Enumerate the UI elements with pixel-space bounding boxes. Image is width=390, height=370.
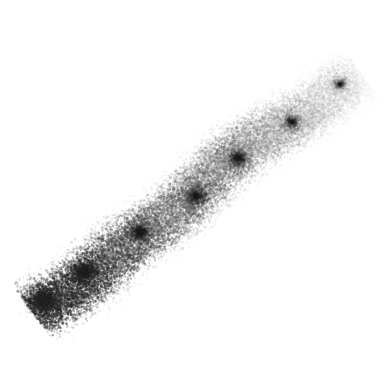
diagonal-pencil-stroke [0, 0, 390, 370]
drawing-canvas: Diagonal pencil stroke A single broad di… [0, 0, 390, 370]
